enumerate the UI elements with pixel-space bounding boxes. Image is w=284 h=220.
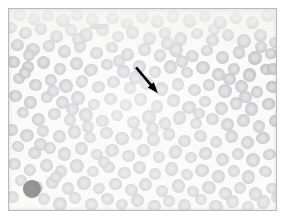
red-blood-cell [226,163,241,178]
blood-smear-figure: Peripheral blood smear micrograph [0,0,284,220]
red-blood-cell [12,9,28,22]
red-blood-cell [250,85,264,99]
red-blood-cell [192,129,207,144]
red-blood-cell [39,158,54,173]
red-blood-cell [184,152,197,164]
red-blood-cell [154,81,170,97]
red-blood-cell [164,161,179,176]
red-blood-cell [257,165,273,180]
red-blood-cell [40,9,55,23]
red-blood-cell [109,109,124,124]
red-blood-cell [205,112,220,126]
red-blood-cell [198,145,214,160]
red-blood-cell [9,37,25,53]
red-blood-cell [268,114,276,128]
red-blood-cell [221,28,235,42]
red-blood-cell [208,198,224,210]
red-blood-cell [138,177,153,192]
red-blood-cell [98,125,114,141]
red-blood-cell [131,159,148,176]
red-blood-cell [260,97,276,112]
red-blood-cell [231,147,245,161]
figure-title: Peripheral blood smear micrograph [0,0,1,1]
red-blood-cell [181,12,198,29]
red-blood-cell [46,85,59,98]
red-blood-cell [47,107,61,121]
red-blood-cell [125,24,141,39]
red-blood-cell [244,14,259,29]
red-blood-cell [244,151,261,169]
red-blood-cell [108,177,122,190]
red-blood-cell [242,201,255,210]
red-blood-cell [259,9,276,25]
red-blood-cell [171,77,184,91]
red-blood-cell [225,130,240,145]
red-blood-cell [121,150,134,163]
red-blood-cell [130,127,145,142]
red-blood-cell [215,49,231,65]
red-blood-cell [190,118,203,130]
red-blood-cell [27,77,43,92]
red-blood-cell [35,54,52,71]
red-blood-cell [236,113,250,127]
red-blood-cell [137,42,150,55]
red-blood-cell [218,84,233,98]
red-blood-cell [106,11,121,25]
red-blood-cell [9,189,21,204]
red-blood-cell [9,123,20,138]
smear-field [9,9,276,210]
red-blood-cell [117,166,131,180]
red-blood-cell [9,21,18,33]
darkly-stained-cell [23,180,41,198]
red-blood-cell [12,141,25,153]
red-blood-cell [268,35,276,48]
red-blood-cell [54,63,67,76]
red-blood-cell [194,193,208,206]
red-blood-cell [20,129,35,143]
red-blood-cell [57,146,73,162]
red-blood-cell [214,151,231,167]
red-blood-cell [177,198,193,210]
red-blood-cell [147,199,161,210]
red-blood-cell [264,79,276,95]
red-blood-cell [166,9,181,24]
red-blood-cell [68,157,86,175]
red-blood-cell [229,11,243,24]
red-blood-cell [201,45,214,57]
red-blood-cell [199,96,211,108]
red-blood-cell [68,191,82,205]
red-blood-cell [165,93,181,110]
red-blood-cell [86,166,99,178]
red-blood-cell [261,148,276,162]
red-blood-cell [57,44,73,60]
red-blood-cell [9,158,22,171]
red-blood-cell [69,9,84,23]
red-blood-cell [91,80,106,94]
red-blood-cell [51,195,69,210]
red-blood-cell [133,92,149,108]
red-blood-cell [68,125,81,139]
red-blood-cell [84,198,97,210]
red-blood-cell [152,150,166,164]
red-blood-cell [133,9,150,25]
red-blood-cell [199,11,212,23]
red-blood-cell [114,197,130,210]
red-blood-cell [170,178,186,194]
micrograph-frame [8,8,277,211]
red-blood-cell [255,131,271,146]
red-blood-cell [208,134,223,149]
red-blood-cell [9,90,21,102]
red-blood-cell [16,107,29,119]
red-blood-cell [192,107,205,119]
red-blood-cell [75,174,92,192]
red-blood-cell [103,92,118,106]
red-blood-cell [89,46,103,59]
red-blood-cell [105,41,119,54]
red-blood-cell [58,78,73,93]
red-blood-cell [99,191,115,206]
red-blood-cell [68,56,84,72]
red-blood-cell [195,163,209,177]
red-blood-cell [178,135,192,148]
red-blood-cell [95,115,108,127]
red-blood-cell [186,82,202,98]
